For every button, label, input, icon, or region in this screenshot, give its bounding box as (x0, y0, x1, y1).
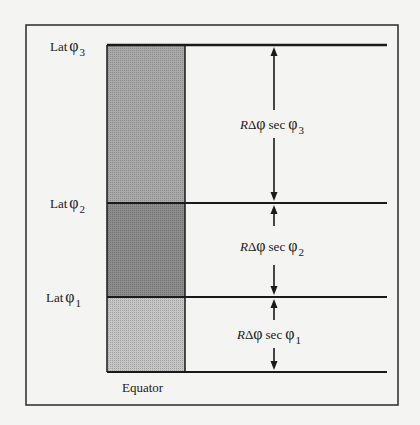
spacing-label-2: RΔφsecφ2 (239, 237, 304, 258)
arrowhead-up-icon (271, 299, 278, 308)
latitude-label-2: Latφ2 (50, 194, 85, 215)
spacing-label-1: RΔφsecφ1 (236, 325, 301, 346)
arrowhead-up-icon (271, 205, 278, 214)
arrowhead-down-icon (271, 361, 278, 370)
arrowhead-up-icon (271, 47, 278, 56)
arrowhead-down-icon (271, 192, 278, 201)
figure-frame (26, 25, 398, 405)
dimension-arrows (271, 47, 278, 370)
spacing-label-3: RΔφsecφ3 (239, 115, 304, 136)
arrowhead-down-icon (271, 286, 278, 295)
latitude-label-1: Latφ1 (46, 288, 81, 309)
mercator-spacing-diagram: Latφ3 Latφ2 Latφ1 RΔφsecφ3 RΔφsecφ2 RΔφs… (0, 0, 420, 425)
latitude-label-3: Latφ3 (50, 37, 86, 58)
shaded-column (107, 45, 185, 372)
equator-label: Equator (122, 380, 164, 395)
